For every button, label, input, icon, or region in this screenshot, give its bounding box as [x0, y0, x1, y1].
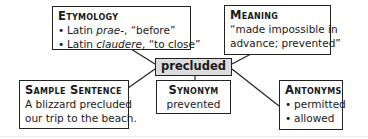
connector-sample	[128, 69, 155, 88]
connector-antonyms	[232, 69, 279, 106]
sample-sentence-heading: Sample Sentence	[25, 84, 123, 97]
synonym-value: prevented	[162, 97, 225, 111]
etymology-heading: Etymology	[58, 10, 185, 23]
etymology-item: •Latin claudere, “to close”	[58, 37, 185, 51]
meaning-line: “made impossible in	[230, 22, 325, 36]
antonyms-heading: Antonyms	[285, 84, 337, 97]
meaning-line: advance; prevented”	[230, 36, 325, 50]
meaning-heading: Meaning	[230, 9, 325, 22]
connector-etymology	[131, 49, 155, 64]
etymology-box: Etymology •Latin prae-, “before” •Latin …	[52, 6, 191, 50]
synonym-heading: Synonym	[162, 84, 225, 97]
sample-sentence-box: Sample Sentence A blizzard precluded our…	[19, 80, 129, 129]
antonyms-box: Antonyms •permitted •allowed	[279, 80, 343, 130]
synonym-box: Synonym prevented	[156, 80, 231, 114]
antonym-item: •allowed	[285, 111, 337, 125]
center-word: precluded	[155, 58, 232, 76]
bottom-divider	[0, 136, 368, 137]
bullet-icon: •	[285, 111, 294, 125]
meaning-box: Meaning “made impossible in advance; pre…	[224, 5, 331, 55]
bullet-icon: •	[58, 37, 67, 51]
etymology-item: •Latin prae-, “before”	[58, 23, 185, 37]
bullet-icon: •	[285, 97, 294, 111]
connector-meaning	[232, 54, 251, 64]
sample-sentence-line: A blizzard precluded	[25, 97, 123, 111]
bullet-icon: •	[58, 23, 67, 37]
sample-sentence-line: our trip to the beach.	[25, 111, 123, 125]
antonym-item: •permitted	[285, 97, 337, 111]
